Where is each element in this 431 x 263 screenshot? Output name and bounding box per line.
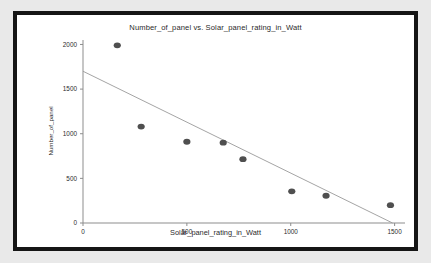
x-tick-label: 1000 (284, 228, 299, 235)
data-points-group (114, 42, 394, 208)
chart-svg: 0500100015002000 050010001500 (17, 15, 414, 247)
data-point (183, 139, 190, 145)
trend-line (83, 71, 393, 223)
data-point (239, 156, 246, 162)
screenshot-page: Number_of_panel vs. Solar_panel_rating_i… (0, 0, 431, 263)
data-point (114, 42, 121, 48)
y-tick-label: 1500 (63, 85, 78, 92)
chart-plot-area: Number_of_panel vs. Solar_panel_rating_i… (17, 15, 414, 247)
y-tick-label: 500 (66, 175, 77, 182)
y-tick-label: 2000 (63, 41, 78, 48)
y-axis-ticks: 0500100015002000 (63, 41, 83, 227)
y-tick-label: 0 (73, 219, 77, 226)
x-tick-label: 500 (182, 228, 193, 235)
data-point (387, 202, 394, 208)
chart-frame: Number_of_panel vs. Solar_panel_rating_i… (13, 11, 418, 251)
y-tick-label: 1000 (63, 130, 78, 137)
x-axis-ticks: 050010001500 (81, 223, 402, 235)
data-point (322, 193, 329, 199)
trend-line-group (83, 71, 393, 223)
x-tick-label: 0 (81, 228, 85, 235)
data-point (138, 124, 145, 130)
x-tick-label: 1500 (388, 228, 403, 235)
data-point (288, 188, 295, 194)
data-point (220, 140, 227, 146)
